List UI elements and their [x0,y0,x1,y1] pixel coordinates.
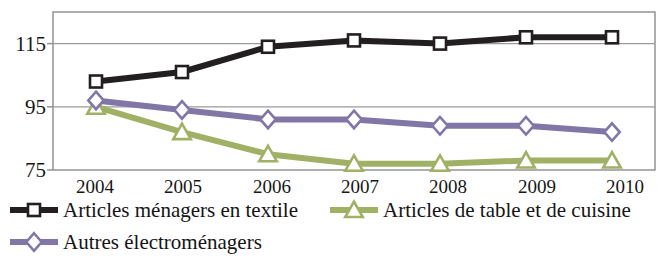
line-chart: 115 95 75 2004 2005 2006 2007 2008 2009 … [0,0,660,261]
data-point-marker [348,34,360,46]
series-0 [90,31,618,87]
data-point-marker [520,31,532,43]
data-point-marker [260,111,275,129]
data-point-marker [346,111,361,129]
legend-marker [26,233,41,251]
data-point-marker [174,101,189,119]
legend-swatch-0 [10,204,58,216]
data-point-marker [434,38,446,50]
data-point-marker [262,41,274,53]
data-point-marker [518,117,533,134]
data-point-marker [176,66,188,78]
data-point-marker [90,76,102,88]
legend-marker [28,204,40,216]
chart-canvas [0,0,660,261]
data-point-marker [606,31,618,43]
data-point-marker [604,123,619,141]
data-point-marker [432,117,447,134]
legend-swatch-1 [330,202,378,217]
legend-swatch-2 [10,233,58,251]
y-axis-tick-marks [47,44,53,170]
series-2 [88,92,619,141]
